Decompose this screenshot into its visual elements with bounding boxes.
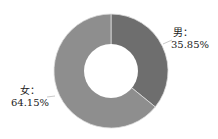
label-female-value: 64.15% <box>11 97 49 108</box>
donut-hole <box>84 44 138 98</box>
label-male-value: 35.85% <box>171 39 209 50</box>
label-male-name: 男： <box>173 27 193 38</box>
donut-chart: 男： 35.85% 女： 64.15% <box>0 0 218 139</box>
label-female-name: 女： <box>20 84 40 96</box>
